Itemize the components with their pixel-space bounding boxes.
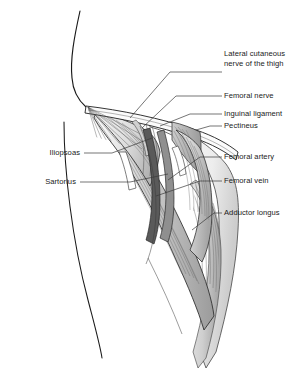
anatomy-figure: Lateral cutaneous nerve of the thigh Fem…: [0, 0, 307, 371]
label-pectineus: Pectineus: [224, 121, 258, 131]
leader-pectineus: [196, 126, 222, 130]
label-femoral-nerve: Femoral nerve: [224, 91, 274, 101]
label-lateral-cutaneous-nerve-line-2: nerve of the thigh: [224, 59, 285, 69]
label-inguinal-ligament: Inguinal ligament: [224, 109, 282, 119]
leader-lateral-cutaneous-nerve: [130, 72, 222, 118]
triangle-apex-edge: [148, 258, 182, 334]
label-iliopsoas: Iliopsoas: [12, 148, 80, 158]
label-sartorius: Sartorius: [8, 177, 76, 187]
label-lateral-cutaneous-nerve-of-thigh: Lateral cutaneous nerve of the thigh: [224, 49, 285, 68]
label-lateral-cutaneous-nerve-line-1: Lateral cutaneous: [224, 49, 285, 59]
label-adductor-longus: Adductor longus: [224, 208, 280, 218]
torso-flank-contour: [71, 11, 86, 107]
label-femoral-artery: Femoral artery: [224, 152, 274, 162]
label-femoral-vein: Femoral vein: [224, 176, 269, 186]
